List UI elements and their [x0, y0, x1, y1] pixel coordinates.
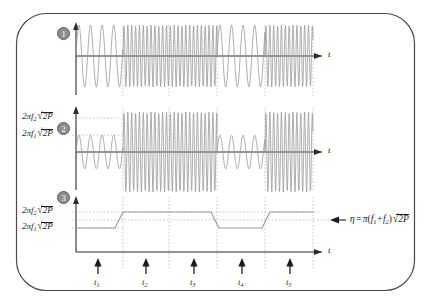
panel-3 — [72, 196, 330, 255]
p2-f2-radical: √2P — [37, 112, 53, 121]
time-marker-label-t5: t5 — [286, 278, 291, 288]
panel-3-level-f1-label: 2πf1√2P — [22, 222, 53, 232]
panel-2-x-arrowhead — [314, 149, 322, 155]
eta-symbol: η — [350, 214, 355, 224]
panel-2-y-arrowhead — [73, 106, 79, 114]
panel-1-x-arrowhead — [314, 53, 322, 59]
panel-3-x-arrowhead — [314, 249, 322, 255]
p3-f2-radical: √2P — [37, 206, 53, 215]
panel-1-badge: 1 — [57, 27, 70, 40]
panel-1 — [73, 22, 322, 95]
panel-2-badge: 2 — [57, 122, 70, 135]
panel-3-y-arrowhead — [73, 196, 79, 204]
panel-2 — [72, 106, 322, 192]
p3-f1-radical: √2P — [37, 222, 53, 231]
marker-arrowhead-t1 — [94, 258, 101, 267]
marker-arrowhead-t5 — [286, 258, 293, 267]
time-marker-label-t4: t4 — [238, 278, 243, 288]
p2-f1-radical: √2P — [37, 129, 53, 138]
time-marker-sub-t2: 2 — [144, 282, 147, 288]
figure-root: 1 2 3 2πf2√2P 2πf1√2P 2πf2√2P 2πf1√2P t … — [0, 0, 431, 304]
eta-radical: √2P — [392, 214, 409, 225]
eta-pointer-arrow — [330, 216, 346, 223]
eta-radicand: 2P — [398, 214, 409, 224]
time-marker-label-t2: t2 — [142, 278, 147, 288]
panel-3-badge: 3 — [57, 191, 70, 204]
time-marker-label-t3: t3 — [190, 278, 195, 288]
panel-2-axis-label: t — [328, 146, 331, 155]
time-marker-sub-t3: 3 — [192, 282, 195, 288]
marker-arrowhead-t2 — [142, 258, 149, 267]
panel-1-axis-label: t — [328, 50, 331, 59]
eta-equals: = — [356, 214, 362, 224]
marker-arrowhead-t3 — [190, 258, 197, 267]
figure-canvas — [0, 0, 431, 304]
panel-2-level-f2-label: 2πf2√2P — [22, 112, 53, 122]
eta-equation-label: η = π(f1+f2)√2P — [350, 214, 409, 225]
panel-2-level-f1-label: 2πf1√2P — [22, 129, 53, 139]
marker-arrowhead-t4 — [238, 258, 245, 267]
time-marker-sub-t1: 1 — [96, 282, 99, 288]
time-marker-arrows — [94, 258, 293, 274]
time-marker-label-t1: t1 — [94, 278, 99, 288]
panel-3-level-f2-label: 2πf2√2P — [22, 206, 53, 216]
time-marker-sub-t4: 4 — [240, 282, 243, 288]
time-marker-sub-t5: 5 — [288, 282, 291, 288]
panel-3-axis-label: t — [328, 246, 331, 255]
